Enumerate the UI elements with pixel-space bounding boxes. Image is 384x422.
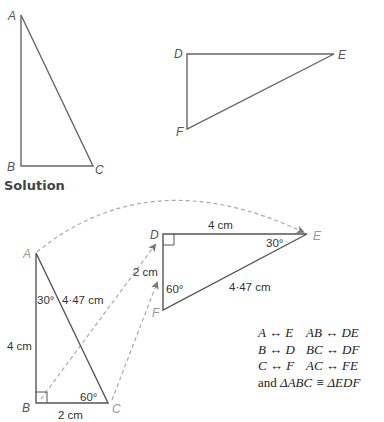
solution-label-b: B	[22, 401, 30, 415]
correspondence-list: A ↔ E AB ↔ DE B ↔ D BC ↔ DF C ↔ F AC ↔ F…	[258, 325, 360, 391]
correspondence-row: C ↔ F AC ↔ FE	[258, 358, 360, 375]
top-label-d: D	[174, 47, 183, 61]
top-triangle-abc: A B C	[7, 9, 104, 177]
side-df-label: 2 cm	[133, 266, 158, 278]
top-label-b: B	[7, 160, 15, 174]
side-fe-label: 4·47 cm	[229, 281, 271, 293]
side-ac-label: 4·47 cm	[62, 294, 104, 306]
correspondence-row: A ↔ E AB ↔ DE	[258, 325, 360, 342]
solution-label-c: C	[112, 402, 121, 416]
top-label-c: C	[95, 163, 104, 177]
side-correspondence: BC ↔ DF	[306, 342, 359, 359]
angle-f-label: 60°	[166, 283, 183, 295]
vertex-correspondence: A ↔ E	[258, 325, 306, 342]
congruence-expression: ΔABC ≡ ΔEDF	[280, 375, 360, 390]
arrow-c-to-f	[112, 283, 157, 400]
top-label-f: F	[176, 125, 184, 139]
side-correspondence: AC ↔ FE	[306, 358, 358, 375]
solution-triangle-abc: A B C 30° 4·47 cm 4 cm 60° 2 cm	[7, 247, 121, 421]
solution-label-e: E	[313, 229, 322, 243]
arrow-a-to-e	[37, 200, 303, 252]
top-label-e: E	[338, 48, 347, 62]
side-de-label: 4 cm	[208, 219, 233, 231]
congruence-statement: and ΔABC ≡ ΔEDF	[258, 375, 360, 392]
solution-triangle-def: D E F 4 cm 30° 2 cm 60° 4·47 cm	[133, 219, 322, 320]
angle-e-label: 30°	[266, 237, 283, 249]
correspondence-row: B ↔ D BC ↔ DF	[258, 342, 360, 359]
angle-a-label: 30°	[37, 294, 54, 306]
side-bc-label: 2 cm	[58, 409, 83, 421]
angle-c-label: 60°	[80, 391, 97, 403]
top-triangle-def: D E F	[174, 47, 347, 139]
solution-heading: Solution	[4, 178, 65, 193]
conclusion-prefix: and	[258, 375, 280, 390]
solution-label-a: A	[22, 247, 31, 261]
vertex-correspondence: C ↔ F	[258, 358, 306, 375]
solution-label-d: D	[150, 228, 159, 242]
vertex-correspondence: B ↔ D	[258, 342, 306, 359]
side-ab-label: 4 cm	[7, 340, 32, 352]
side-correspondence: AB ↔ DE	[306, 325, 359, 342]
top-label-a: A	[7, 9, 16, 23]
solution-label-f: F	[152, 306, 160, 320]
